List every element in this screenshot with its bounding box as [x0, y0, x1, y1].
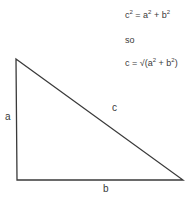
- eq3-a: (a: [145, 58, 153, 68]
- label-side-a: a: [5, 111, 11, 122]
- eq3-close: ): [175, 58, 178, 68]
- right-triangle: [0, 0, 196, 201]
- triangle-shape: [16, 59, 183, 180]
- eq1-a: = a: [133, 10, 148, 20]
- equation-so: so: [125, 35, 135, 45]
- eq3-prefix: c =: [125, 58, 140, 68]
- equation-pythagorean: c2 = a2 + b2: [125, 10, 170, 20]
- label-side-c: c: [112, 102, 117, 113]
- label-side-b: b: [103, 183, 109, 194]
- eq1-exp-b: 2: [167, 9, 170, 15]
- eq3-b: + b: [156, 58, 171, 68]
- eq1-b: + b: [151, 10, 166, 20]
- equation-solve-c: c = √(a2 + b2): [125, 58, 178, 68]
